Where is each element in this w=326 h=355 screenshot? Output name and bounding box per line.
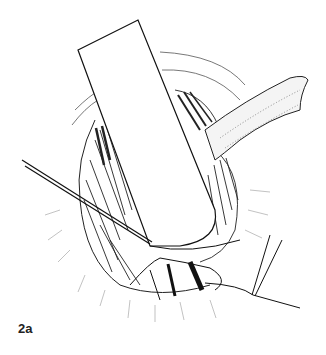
surgical-illustration: 2a — [0, 0, 326, 355]
figure-label: 2a — [18, 321, 32, 336]
needle-holder — [205, 235, 300, 308]
tubular-structure — [205, 76, 308, 160]
